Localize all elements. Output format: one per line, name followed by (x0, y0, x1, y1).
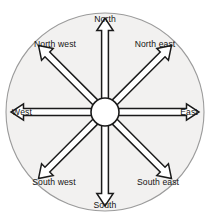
compass-rose-diagram: North North east East South east South S… (0, 0, 210, 220)
compass-hub-group (91, 98, 119, 126)
compass-center-hub (91, 98, 119, 126)
compass-rose-graphic (0, 0, 210, 220)
